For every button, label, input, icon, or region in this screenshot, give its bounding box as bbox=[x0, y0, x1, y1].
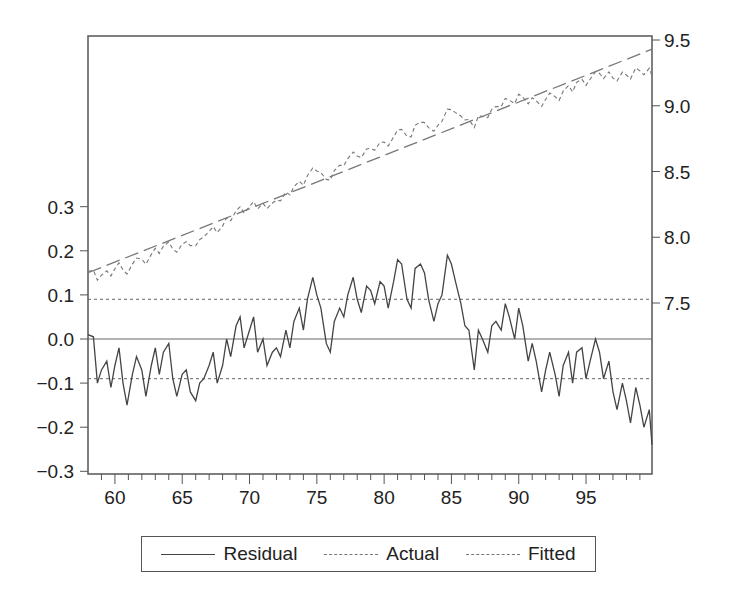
right-tick-label: 8.5 bbox=[664, 162, 690, 183]
right-tick-label: 9.0 bbox=[664, 96, 690, 117]
right-axis: 9.59.08.58.07.5 bbox=[652, 30, 690, 314]
fitted-series-line bbox=[88, 49, 652, 273]
x-tick-label: 60 bbox=[104, 487, 125, 508]
legend-label-actual: Actual bbox=[386, 543, 439, 565]
left-tick-label: 0.0 bbox=[48, 329, 74, 350]
left-tick-label: 0.3 bbox=[48, 197, 74, 218]
plot-frame bbox=[88, 36, 652, 474]
right-tick-label: 8.0 bbox=[664, 227, 690, 248]
right-tick-label: 9.5 bbox=[664, 30, 690, 51]
chart-legend: Residual Actual Fitted bbox=[141, 536, 596, 572]
left-tick-label: −0.2 bbox=[36, 417, 74, 438]
residual-series-line bbox=[88, 255, 652, 445]
left-axis: 0.30.20.10.0−0.1−0.2−0.3 bbox=[36, 197, 88, 483]
actual-swatch-icon bbox=[324, 554, 378, 555]
reference-lines bbox=[88, 299, 652, 378]
legend-item-actual: Actual bbox=[324, 543, 439, 565]
x-tick-label: 90 bbox=[508, 487, 529, 508]
left-tick-label: −0.3 bbox=[36, 461, 74, 482]
x-tick-label: 95 bbox=[575, 487, 596, 508]
legend-label-fitted: Fitted bbox=[528, 543, 576, 565]
x-tick-label: 65 bbox=[172, 487, 193, 508]
legend-item-residual: Residual bbox=[161, 543, 297, 565]
left-tick-label: 0.1 bbox=[48, 285, 74, 306]
x-tick-label: 75 bbox=[306, 487, 327, 508]
x-tick-label: 80 bbox=[374, 487, 395, 508]
fitted-swatch-icon bbox=[466, 554, 520, 555]
residual-swatch-icon bbox=[161, 554, 215, 555]
legend-item-fitted: Fitted bbox=[466, 543, 576, 565]
x-tick-label: 85 bbox=[441, 487, 462, 508]
actual-series-line bbox=[88, 68, 652, 280]
x-tick-label: 70 bbox=[239, 487, 260, 508]
plot-border bbox=[88, 36, 652, 474]
legend-label-residual: Residual bbox=[223, 543, 297, 565]
left-tick-label: −0.1 bbox=[36, 373, 74, 394]
chart-canvas: 0.30.20.10.0−0.1−0.2−0.3 9.59.08.58.07.5… bbox=[0, 0, 733, 600]
left-tick-label: 0.2 bbox=[48, 241, 74, 262]
x-axis: 6065707580859095 bbox=[101, 474, 639, 508]
right-tick-label: 7.5 bbox=[664, 293, 690, 314]
